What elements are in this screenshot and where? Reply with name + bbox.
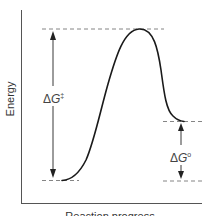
g-symbol: G [178,151,187,165]
delta-symbol: Δ [170,151,178,165]
double-dagger-superscript: ‡ [60,92,64,99]
standard-state-superscript: o [187,151,191,158]
x-axis-label: Reaction progress [50,210,170,216]
arrowhead-up-icon [50,31,56,40]
activation-energy-label: ΔG‡ [43,89,64,106]
energy-diagram [0,0,202,216]
reaction-energy-curve [62,29,184,181]
g-symbol: G [51,92,60,106]
arrowhead-up-icon [178,123,184,131]
arrowhead-down-icon [50,169,56,178]
delta-symbol: Δ [43,92,51,106]
arrowhead-down-icon [178,171,184,179]
y-axis-label: Energy [4,77,16,121]
standard-free-energy-label: ΔGo [170,148,191,165]
